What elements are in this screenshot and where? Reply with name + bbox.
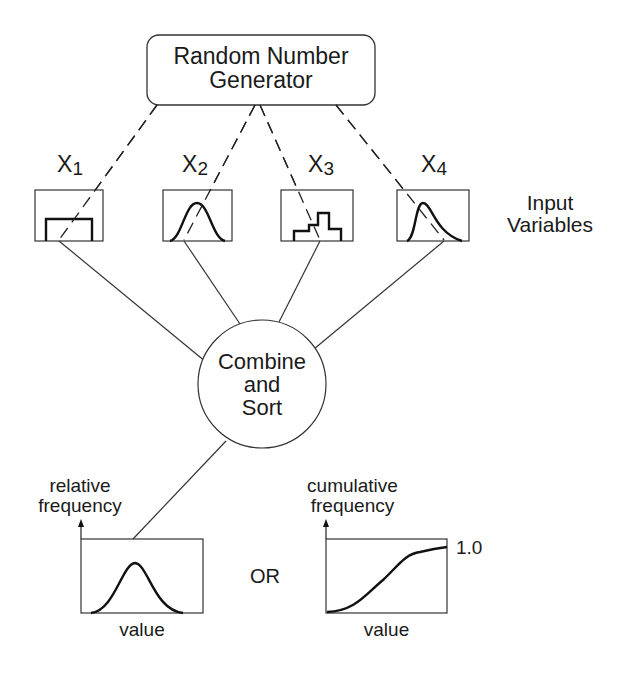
relative-frequency-ylabel: relative frequency bbox=[0, 476, 160, 516]
input-variables-label: Input Variables bbox=[480, 192, 620, 236]
var-name: X bbox=[182, 151, 197, 177]
var-name: X bbox=[421, 151, 436, 177]
input-label-line1: Input bbox=[480, 192, 620, 214]
combine-line1: Combine bbox=[198, 350, 326, 373]
cumulative-ylabel-line2: frequency bbox=[285, 496, 420, 516]
input-variable-x1 bbox=[35, 190, 103, 241]
relative-frequency-box bbox=[81, 539, 203, 613]
relative-frequency-xlabel: value bbox=[81, 620, 203, 640]
input-label-line2: Variables bbox=[480, 214, 620, 236]
bell-curve bbox=[91, 563, 183, 613]
link-x4-combine bbox=[314, 241, 444, 349]
cumulative-frequency-xlabel: value bbox=[326, 620, 447, 640]
cumulative-max-label: 1.0 bbox=[456, 538, 496, 558]
link-x2-combine bbox=[184, 241, 240, 324]
variable-label-x2: X2 bbox=[170, 152, 220, 179]
var-subscript: 2 bbox=[197, 158, 208, 179]
combine-line3: Sort bbox=[198, 396, 326, 419]
generator-title-line1: Random Number bbox=[147, 44, 375, 68]
dashed-random-links bbox=[59, 105, 444, 240]
or-connector: OR bbox=[235, 566, 295, 587]
cumulative-frequency-ylabel: cumulative frequency bbox=[285, 476, 420, 516]
cumulative-frequency-plot bbox=[323, 519, 447, 613]
relative-ylabel-line2: frequency bbox=[0, 496, 160, 516]
arrow-head-icon bbox=[323, 519, 329, 527]
link-x1-combine bbox=[59, 241, 206, 362]
combine-and-sort-label: Combine and Sort bbox=[198, 350, 326, 419]
var-subscript: 3 bbox=[323, 158, 334, 179]
var-subscript: 4 bbox=[436, 158, 447, 179]
variable-label-x3: X3 bbox=[296, 152, 346, 179]
cumulative-ylabel-line1: cumulative bbox=[285, 476, 420, 496]
relative-frequency-plot bbox=[78, 519, 203, 613]
relative-ylabel-line1: relative bbox=[0, 476, 160, 496]
variable-label-x4: X4 bbox=[409, 152, 459, 179]
var-name: X bbox=[308, 151, 323, 177]
var-subscript: 1 bbox=[72, 158, 83, 179]
arrow-head-icon bbox=[78, 519, 84, 527]
variable-label-x1: X1 bbox=[45, 152, 95, 179]
generator-label: Random Number Generator bbox=[147, 44, 375, 92]
monte-carlo-diagram bbox=[0, 0, 622, 676]
link-x3-combine bbox=[279, 241, 320, 322]
combine-line2: and bbox=[198, 373, 326, 396]
var-name: X bbox=[57, 151, 72, 177]
generator-title-line2: Generator bbox=[147, 68, 375, 92]
s-curve bbox=[327, 547, 447, 612]
dashed-overlay bbox=[59, 105, 444, 240]
input-variable-x4 bbox=[397, 190, 469, 241]
